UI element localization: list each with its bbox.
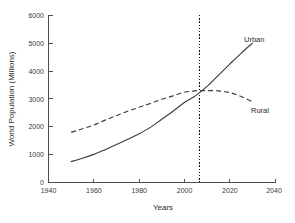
x-tick-label-1980: 1980 bbox=[131, 187, 147, 194]
y-tick-label-6000: 6000 bbox=[28, 12, 44, 19]
y-tick-label-0: 0 bbox=[40, 179, 44, 186]
x-tick-label-1940: 1940 bbox=[41, 187, 57, 194]
x-tick-label-1960: 1960 bbox=[86, 187, 102, 194]
y-tick-label-1000: 1000 bbox=[28, 151, 44, 158]
y-tick-label-5000: 5000 bbox=[28, 40, 44, 47]
x-tick-label-2020: 2020 bbox=[222, 187, 238, 194]
y-axis-title: World Population (Millions) bbox=[7, 51, 16, 146]
series-label-urban: Urban bbox=[244, 35, 264, 44]
chart-container: 0 1000 2000 3000 4000 5000 6000 1940 196… bbox=[0, 0, 295, 223]
x-tick-label-2000: 2000 bbox=[177, 187, 193, 194]
y-tick-label-3000: 3000 bbox=[28, 96, 44, 103]
population-line-chart: 0 1000 2000 3000 4000 5000 6000 1940 196… bbox=[0, 0, 295, 223]
series-label-rural: Rural bbox=[251, 106, 269, 115]
y-tick-label-4000: 4000 bbox=[28, 68, 44, 75]
x-tick-label-2040: 2040 bbox=[266, 187, 282, 194]
x-axis-title: Years bbox=[153, 203, 173, 212]
y-tick-label-2000: 2000 bbox=[28, 123, 44, 130]
